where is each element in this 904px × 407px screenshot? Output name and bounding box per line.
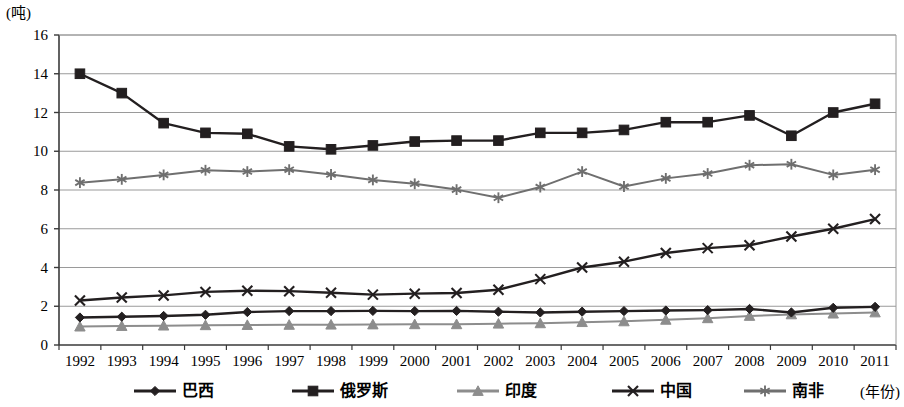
marker-diamond [745,304,754,313]
marker-diamond [536,308,545,317]
x-axis-tick-label: 2006 [651,352,681,370]
legend-symbol [290,381,336,401]
x-axis-tick-label: 2003 [525,352,555,370]
chart-svg [0,28,904,350]
chart-legend: 巴西俄罗斯印度中国南非 [0,380,904,407]
y-axis-tick-label: 16 [2,28,48,43]
marker-square [661,117,671,127]
legend-label: 巴西 [182,381,214,401]
marker-square [308,386,318,396]
marker-diamond [619,306,628,315]
marker-square [368,141,378,151]
marker-square [828,108,838,118]
marker-diamond [870,302,879,311]
gridlines-group [59,35,896,345]
legend-symbol [610,381,656,401]
marker-diamond [150,386,159,395]
x-axis-tick-label: 1996 [232,352,262,370]
chart-root: (吨) 0246810121416 1992199319941995199619… [0,0,904,407]
x-axis-tick-label: 2011 [860,352,889,370]
marker-square [284,142,294,152]
series-square [75,69,880,154]
x-axis-tick-label: 2000 [400,352,430,370]
x-axis-tick-label: 1999 [358,352,388,370]
marker-square [201,128,211,138]
marker-square [75,69,85,79]
y-axis-tick-label: 14 [2,66,48,81]
y-axis-tick-label: 0 [2,338,48,353]
marker-diamond [494,307,503,316]
marker-diamond [243,307,252,316]
x-axis-tick-label: 1994 [149,352,179,370]
marker-diamond [829,303,838,312]
marker-diamond [117,312,126,321]
series-group [75,69,881,331]
marker-square [494,136,504,146]
marker-square [410,137,420,147]
legend-item-1[interactable]: 巴西 [132,380,214,402]
marker-square [787,131,797,141]
x-axis-tick-label: 2002 [483,352,513,370]
legend-item-4[interactable]: 中国 [610,380,692,402]
x-axis-tick-labels: 1992199319941995199619971998199920002001… [0,352,904,376]
marker-diamond [159,311,168,320]
series-star [75,159,880,203]
marker-diamond [201,310,210,319]
y-axis-unit-label: (吨) [6,4,31,22]
marker-diamond [285,306,294,315]
y-axis-tick-label: 4 [2,260,48,275]
legend-item-5[interactable]: 南非 [742,380,824,402]
legend-label: 中国 [660,381,692,401]
marker-square [326,145,336,155]
legend-symbol [132,381,178,401]
x-axis-tick-label: 1998 [316,352,346,370]
marker-square [452,136,462,146]
marker-diamond [326,306,335,315]
marker-diamond [703,306,712,315]
marker-square [619,125,629,135]
marker-square [243,129,253,139]
x-axis-tick-label: 2008 [735,352,765,370]
y-axis-tick-label: 12 [2,105,48,120]
marker-square [117,88,127,98]
marker-square [577,128,587,138]
marker-square [535,128,545,138]
legend-label: 俄罗斯 [340,381,388,401]
marker-diamond [452,306,461,315]
legend-label: 印度 [505,381,537,401]
y-axis-tick-label: 8 [2,183,48,198]
plot-area: 0246810121416 [0,28,904,350]
x-axis-tick-label: 2005 [609,352,639,370]
y-axis-tick-label: 6 [2,221,48,236]
marker-square [870,99,880,109]
x-axis-tick-label: 2007 [693,352,723,370]
x-axis-tick-label: 1995 [190,352,220,370]
series-diamond [75,302,879,322]
marker-diamond [75,313,84,322]
x-axis-tick-label: 1992 [65,352,95,370]
marker-diamond [578,307,587,316]
marker-diamond [368,306,377,315]
x-axis-tick-label: 2004 [567,352,597,370]
y-axis-tick-label: 10 [2,144,48,159]
series-line [80,219,875,300]
legend-symbol [742,381,788,401]
x-axis-tick-label: 2001 [442,352,472,370]
legend-item-3[interactable]: 印度 [455,380,537,402]
legend-label: 南非 [792,381,824,401]
series-line [80,164,875,198]
x-axis-tick-label: 1997 [274,352,304,370]
marker-star [577,166,586,177]
legend-item-2[interactable]: 俄罗斯 [290,380,388,402]
marker-diamond [661,306,670,315]
marker-square [159,118,169,128]
marker-square [703,117,713,127]
series-x [75,214,880,305]
legend-symbol [455,381,501,401]
x-axis-tick-label: 1993 [107,352,137,370]
marker-diamond [410,306,419,315]
series-line [80,74,875,150]
x-axis-tick-label: 2009 [776,352,806,370]
marker-square [745,111,755,121]
x-axis-unit-label: (年份) [860,382,900,402]
